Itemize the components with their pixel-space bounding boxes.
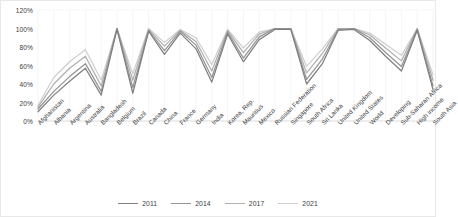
- legend-line-swatch: [278, 203, 298, 204]
- legend-label: 2014: [195, 200, 211, 207]
- legend-item[interactable]: 2021: [278, 200, 318, 207]
- legend-line-swatch: [118, 203, 138, 204]
- y-axis-tick-label: 60%: [1, 62, 33, 69]
- legend-label: 2021: [302, 200, 318, 207]
- y-axis-tick-label: 100%: [1, 25, 33, 32]
- legend-item[interactable]: 2011: [118, 200, 157, 207]
- series-line: [38, 29, 433, 108]
- y-axis-tick-label: 80%: [1, 44, 33, 51]
- y-axis-tick-label: 20%: [1, 99, 33, 106]
- chart-legend: 2011201420172021: [1, 200, 435, 207]
- legend-label: 2011: [142, 200, 157, 207]
- series-line: [38, 29, 433, 106]
- y-axis-tick-label: 40%: [1, 81, 33, 88]
- legend-item[interactable]: 2017: [225, 200, 265, 207]
- legend-item[interactable]: 2014: [171, 200, 211, 207]
- y-axis-tick-label: 120%: [1, 7, 33, 14]
- x-axis: AfghanistanAlbaniaArgentinaAustraliaBang…: [38, 121, 437, 183]
- y-axis: 0%20%40%60%80%100%120%: [1, 1, 37, 130]
- legend-label: 2017: [249, 200, 265, 207]
- legend-line-swatch: [225, 203, 245, 204]
- legend-line-swatch: [171, 203, 191, 204]
- y-axis-tick-label: 0%: [1, 118, 33, 125]
